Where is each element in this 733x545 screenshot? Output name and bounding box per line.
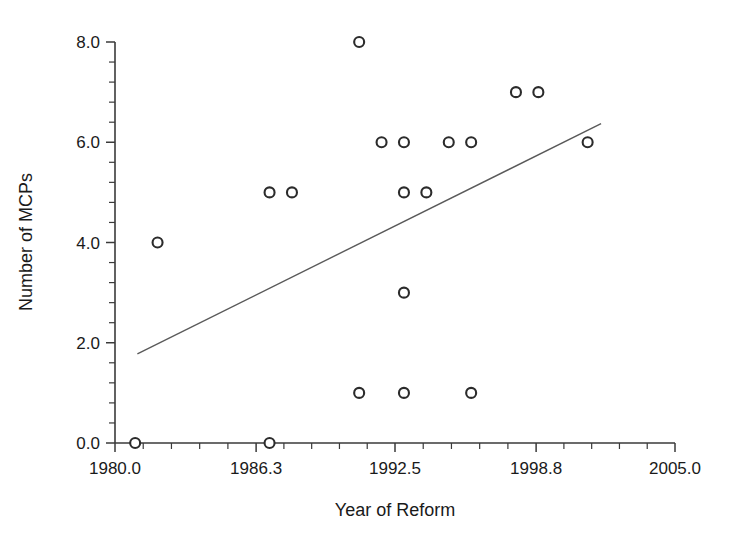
data-point-marker <box>399 137 409 147</box>
data-point-marker <box>399 388 409 398</box>
regression-line <box>137 124 601 354</box>
data-point-marker <box>466 388 476 398</box>
x-tick-label: 1992.5 <box>369 459 421 478</box>
y-tick-label: 0.0 <box>76 434 100 453</box>
data-point-marker <box>399 288 409 298</box>
data-point-marker <box>583 137 593 147</box>
scatter-plot-figure: 1980.01986.31992.51998.82005.0 0.02.04.0… <box>0 0 733 545</box>
x-axis-title: Year of Reform <box>335 500 455 520</box>
data-point-marker <box>511 87 521 97</box>
y-tick-label: 6.0 <box>76 133 100 152</box>
data-point-marker <box>421 187 431 197</box>
data-point-marker <box>466 137 476 147</box>
regression-trendline-group <box>137 124 601 354</box>
data-point-marker <box>130 438 140 448</box>
x-tick-label: 1998.8 <box>510 459 562 478</box>
data-point-marker <box>354 37 364 47</box>
y-tick-label: 4.0 <box>76 234 100 253</box>
data-point-marker <box>354 388 364 398</box>
y-axis-tick-labels: 0.02.04.06.08.0 <box>76 33 100 453</box>
data-point-marker <box>444 137 454 147</box>
x-axis-tick-labels: 1980.01986.31992.51998.82005.0 <box>89 459 701 478</box>
tick-marks-group <box>106 42 675 452</box>
data-point-marker <box>153 238 163 248</box>
data-point-marker <box>533 87 543 97</box>
y-tick-label: 8.0 <box>76 33 100 52</box>
data-point-marker <box>265 438 275 448</box>
plot-canvas: 1980.01986.31992.51998.82005.0 0.02.04.0… <box>0 0 733 545</box>
data-point-marker <box>399 187 409 197</box>
data-point-marker <box>265 187 275 197</box>
axes-group <box>115 42 675 443</box>
y-tick-label: 2.0 <box>76 334 100 353</box>
x-tick-label: 2005.0 <box>649 459 701 478</box>
x-tick-label: 1986.3 <box>230 459 282 478</box>
x-tick-label: 1980.0 <box>89 459 141 478</box>
data-point-marker <box>287 187 297 197</box>
y-axis-title: Number of MCPs <box>16 173 36 311</box>
data-point-marker <box>377 137 387 147</box>
